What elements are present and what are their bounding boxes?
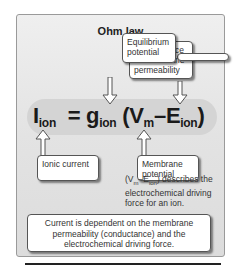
summary-box: Current is dependent on the membrane per…	[27, 214, 211, 252]
ohm-equation: Iion = gion (Vm–Eion)	[33, 103, 204, 130]
driving-force-note: (Vm–Eion) describes the electrochemical …	[125, 174, 221, 208]
eq-equals: =	[68, 103, 81, 128]
callout-equilibrium-potential: Equilibrium potential	[122, 33, 176, 63]
eq-conductance: gion	[86, 103, 116, 128]
diagram-title: Ohm law	[17, 25, 224, 37]
callout-equilibrium	[177, 53, 229, 61]
arrow-down-icon	[102, 77, 118, 105]
callout-ionic-current: Ionic current	[37, 155, 99, 181]
ohm-law-panel: Ohm law Conductance or membrane permeabi…	[16, 14, 225, 257]
arrow-down-icon	[172, 81, 188, 105]
eq-current: Iion	[33, 103, 56, 128]
divider-line	[25, 263, 221, 265]
eq-driving-force: (Vm–Eion)	[122, 103, 204, 128]
